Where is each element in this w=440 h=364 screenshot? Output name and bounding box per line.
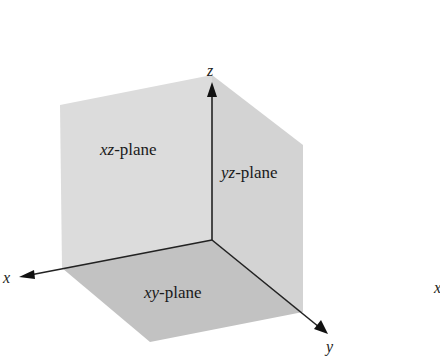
coordinate-planes-diagram: z x y xz-plane yz-plane xy-plane x <box>0 0 440 364</box>
x-axis-arrow-icon <box>19 270 35 279</box>
yz-plane-label: yz-plane <box>219 163 278 182</box>
cropped-axis-label: x <box>433 279 440 296</box>
xy-plane-label: xy-plane <box>143 283 202 302</box>
x-axis-label: x <box>2 269 10 286</box>
xz-plane <box>60 75 212 268</box>
y-axis-label: y <box>324 338 334 356</box>
y-axis-arrow-icon <box>314 320 328 334</box>
z-axis-label: z <box>206 62 214 79</box>
xz-plane-label: xz-plane <box>99 140 157 159</box>
